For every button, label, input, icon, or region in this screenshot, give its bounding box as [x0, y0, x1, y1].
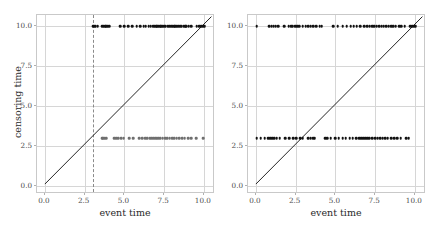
y-tick-label: 0.0 [6, 181, 32, 190]
data-point [263, 137, 266, 140]
y-tick-mark [34, 65, 36, 66]
x-tick-mark [414, 193, 415, 195]
data-point [195, 137, 198, 140]
y-axis-label: censoring time [12, 66, 23, 138]
y-tick-mark [34, 25, 36, 26]
x-tick-label: 10.0 [406, 196, 422, 205]
data-point [407, 137, 410, 140]
data-point [255, 137, 258, 140]
data-point [127, 25, 130, 28]
y-tick-mark [34, 145, 36, 146]
data-point [123, 25, 126, 28]
plot-area [36, 14, 214, 193]
data-point [187, 137, 190, 140]
y-tick-label: 2.5 [6, 141, 32, 150]
y-tick-mark [34, 185, 36, 186]
x-tick-mark [295, 193, 296, 195]
data-point [341, 25, 344, 28]
identity-diagonal-line [248, 15, 424, 192]
y-tick-mark [245, 185, 247, 186]
data-point [119, 25, 122, 28]
y-tick-mark [245, 105, 247, 106]
x-tick-label: 0.0 [38, 196, 49, 205]
x-tick-mark [84, 193, 85, 195]
data-point [313, 137, 316, 140]
y-tick-mark [245, 65, 247, 66]
data-point [403, 25, 406, 28]
data-point [139, 25, 142, 28]
x-tick-label: 10.0 [195, 196, 211, 205]
data-point [128, 137, 131, 140]
data-point [283, 25, 286, 28]
data-point [414, 25, 417, 28]
x-tick-label: 7.5 [368, 196, 379, 205]
y-tick-mark [245, 145, 247, 146]
data-point [399, 137, 402, 140]
x-tick-label: 2.5 [78, 196, 89, 205]
x-tick-label: 2.5 [289, 196, 300, 205]
data-point [345, 25, 348, 28]
data-point [344, 137, 347, 140]
x-tick-label: 5.0 [118, 196, 129, 205]
x-tick-mark [334, 193, 335, 195]
x-tick-mark [163, 193, 164, 195]
y-tick-label: 0.0 [217, 181, 243, 190]
data-point [329, 137, 332, 140]
data-point [202, 137, 205, 140]
identity-diagonal-line [37, 15, 213, 192]
data-point [259, 137, 262, 140]
x-tick-label: 0.0 [249, 196, 260, 205]
data-point [295, 137, 298, 140]
data-point [288, 137, 291, 140]
data-point [255, 25, 258, 28]
data-point [190, 137, 193, 140]
data-point [108, 25, 111, 28]
x-axis-label: event time [247, 207, 425, 218]
data-point [136, 25, 139, 28]
x-tick-label: 7.5 [157, 196, 168, 205]
y-tick-label: 7.5 [217, 61, 243, 70]
data-point [132, 137, 135, 140]
data-point [203, 25, 206, 28]
x-tick-label: 5.0 [329, 196, 340, 205]
y-tick-label: 10.0 [6, 21, 32, 30]
data-point [298, 25, 301, 28]
x-tick-mark [374, 193, 375, 195]
data-point [321, 25, 324, 28]
x-tick-mark [123, 193, 124, 195]
data-point [332, 25, 335, 28]
data-point [105, 137, 108, 140]
x-tick-mark [255, 193, 256, 195]
y-tick-label: 2.5 [217, 141, 243, 150]
data-point [278, 137, 281, 140]
y-tick-label: 10.0 [217, 21, 243, 30]
x-tick-mark [44, 193, 45, 195]
data-point [359, 25, 362, 28]
data-point [337, 137, 340, 140]
y-tick-mark [34, 105, 36, 106]
data-point [131, 25, 134, 28]
data-point [277, 25, 280, 28]
data-point [122, 137, 125, 140]
y-tick-label: 5.0 [217, 101, 243, 110]
plot-area [247, 14, 425, 193]
data-point [284, 137, 287, 140]
figure-container: 0.02.55.07.510.00.02.55.07.510.0event ti… [0, 0, 436, 226]
data-point [336, 25, 339, 28]
y-tick-mark [245, 25, 247, 26]
data-point [302, 137, 305, 140]
x-axis-label: event time [36, 207, 214, 218]
data-point [97, 25, 100, 28]
x-tick-mark [203, 193, 204, 195]
data-point [190, 25, 193, 28]
